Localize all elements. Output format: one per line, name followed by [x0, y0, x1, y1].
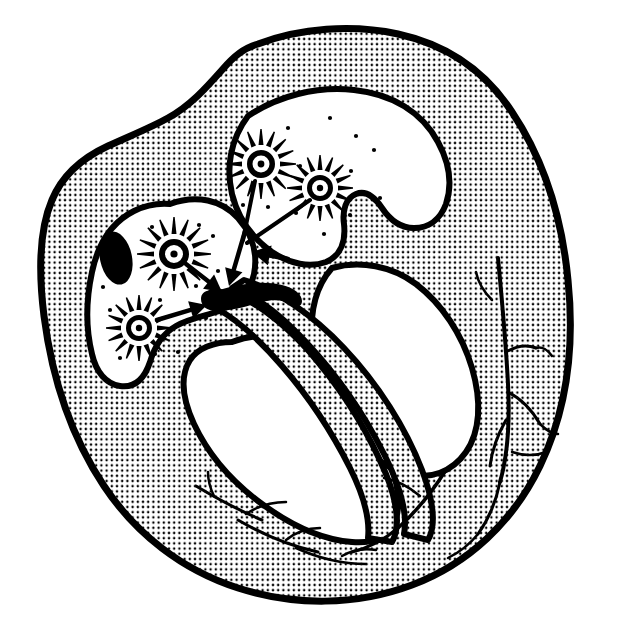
focus-core-dot	[258, 161, 265, 168]
speckle-dot-17	[176, 350, 180, 354]
speckle-dot-21	[101, 285, 105, 289]
speckle-dot-15	[194, 284, 198, 288]
focus-core-dot	[170, 250, 177, 257]
speckle-dot-9	[241, 203, 245, 207]
speckle-dot-1	[328, 116, 332, 120]
speckle-dot-23	[322, 232, 326, 236]
speckle-dot-5	[372, 148, 376, 152]
speckle-dot-10	[266, 205, 270, 209]
speckle-dot-11	[211, 234, 215, 238]
speckle-dot-7	[348, 213, 352, 217]
speckle-dot-12	[150, 225, 154, 229]
speckle-dot-18	[118, 356, 122, 360]
speckle-dot-20	[204, 316, 208, 320]
speckle-dot-19	[153, 352, 157, 356]
speckle-dot-22	[216, 269, 220, 273]
focus-left-upper	[137, 217, 211, 291]
speckle-dot-16	[108, 308, 112, 312]
focus-core-dot	[136, 325, 142, 331]
speckle-dot-14	[158, 298, 162, 302]
heart-cross-section-illustration	[0, 0, 626, 631]
focus-left-lower	[106, 295, 172, 361]
heart-diagram-figure	[0, 0, 626, 631]
speckle-dot-8	[378, 196, 382, 200]
speckle-dot-4	[349, 169, 353, 173]
speckle-dot-0	[286, 126, 290, 130]
speckle-dot-2	[354, 134, 358, 138]
focus-right-lower	[287, 155, 353, 221]
speckle-dot-13	[197, 223, 201, 227]
focus-core-dot	[317, 185, 323, 191]
focus-right-upper	[226, 129, 296, 199]
